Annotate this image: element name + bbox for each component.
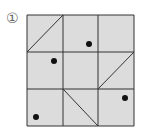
dot-cell-2-2 — [122, 95, 128, 101]
grid-background — [27, 15, 134, 126]
dot-cell-1-0 — [51, 58, 57, 64]
dot-cell-0-1 — [86, 41, 92, 47]
dot-cell-2-0 — [33, 114, 39, 120]
puzzle-grid — [0, 0, 142, 128]
